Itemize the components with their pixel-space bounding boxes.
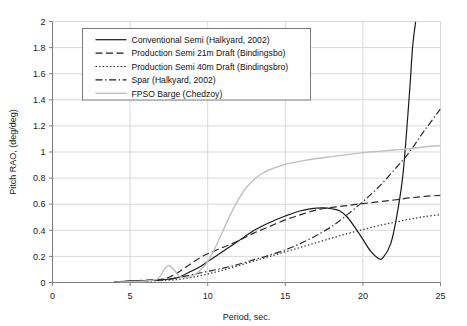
y-tick-label: 0.2 bbox=[33, 252, 46, 262]
legend-label-4: FPSO Barge (Chedzoy) bbox=[132, 89, 223, 99]
y-tick-label: 0 bbox=[40, 278, 45, 288]
x-tick-label: 20 bbox=[358, 291, 368, 301]
x-tick-label: 25 bbox=[435, 291, 445, 301]
y-tick-label: 0.6 bbox=[33, 199, 46, 209]
legend-label-3: Spar (Halkyard, 2002) bbox=[132, 75, 216, 85]
legend: Conventional Semi (Halkyard, 2002)Produc… bbox=[83, 29, 311, 101]
series-line-4 bbox=[115, 145, 441, 282]
pitch-rao-chart: 00.20.40.60.811.21.41.61.820510152025 Pe… bbox=[0, 0, 467, 326]
y-tick-label: 1.6 bbox=[33, 69, 46, 79]
y-axis-title: Pitch RAO, (deg/deg) bbox=[8, 109, 18, 195]
y-tick-label: 0.8 bbox=[33, 173, 46, 183]
axis-titles: Period, sec.Pitch RAO, (deg/deg) bbox=[8, 109, 270, 322]
x-axis-title: Period, sec. bbox=[223, 312, 271, 322]
legend-label-0: Conventional Semi (Halkyard, 2002) bbox=[132, 35, 270, 45]
x-tick-label: 0 bbox=[50, 291, 55, 301]
x-tick-label: 5 bbox=[128, 291, 133, 301]
y-tick-label: 1.2 bbox=[33, 121, 46, 131]
y-tick-label: 0.4 bbox=[33, 226, 46, 236]
y-tick-label: 1.4 bbox=[33, 95, 46, 105]
legend-label-1: Production Semi 21m Draft (Bindingsbo) bbox=[132, 48, 286, 58]
y-tick-label: 1 bbox=[40, 147, 45, 157]
legend-label-2: Production Semi 40m Draft (Bindingsbro) bbox=[132, 62, 289, 72]
y-tick-label: 2 bbox=[40, 17, 45, 27]
chart-canvas: 00.20.40.60.811.21.41.61.820510152025 Pe… bbox=[0, 0, 467, 326]
x-tick-label: 15 bbox=[280, 291, 290, 301]
y-tick-label: 1.8 bbox=[33, 43, 46, 53]
x-tick-label: 10 bbox=[203, 291, 213, 301]
